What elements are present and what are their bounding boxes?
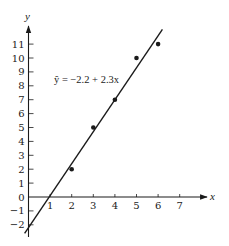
x-tick-label: 5 (133, 200, 139, 211)
y-tick-label: 10 (12, 53, 25, 64)
y-tick-label: 2 (18, 164, 24, 175)
y-tick-label: 7 (18, 94, 24, 105)
y-tick-label: 0 (18, 192, 24, 203)
x-tick-label: 7 (177, 200, 183, 211)
y-tick-label: 9 (18, 66, 24, 77)
y-tick-label: −1 (10, 205, 25, 216)
x-tick-label: 3 (90, 200, 96, 211)
data-point (113, 97, 118, 102)
regression-scatter-chart: 1234567−2−101234567891011 x y ŷ = −2.2 +… (0, 0, 229, 246)
regression-equation-label: ŷ = −2.2 + 2.3x (54, 74, 120, 85)
data-point (156, 42, 161, 47)
data-point (134, 56, 139, 61)
y-tick-label: 4 (18, 136, 24, 147)
data-points (69, 42, 160, 172)
y-tick-label: 3 (18, 150, 24, 161)
y-axis-label: y (24, 10, 30, 22)
data-point (69, 167, 74, 172)
x-tick-label: 6 (155, 200, 161, 211)
y-tick-label: 6 (18, 108, 24, 119)
ticks: 1234567−2−101234567891011 (10, 39, 183, 231)
x-tick-label: 4 (112, 200, 118, 211)
y-tick-label: −2 (10, 219, 25, 230)
x-tick-label: 1 (47, 200, 53, 211)
y-tick-label: 11 (12, 39, 25, 50)
y-tick-label: 1 (18, 178, 24, 189)
x-tick-label: 2 (69, 200, 75, 211)
y-tick-label: 5 (18, 122, 24, 133)
x-axis-label: x (209, 190, 215, 202)
data-point (91, 125, 96, 130)
y-tick-label: 8 (18, 80, 24, 91)
